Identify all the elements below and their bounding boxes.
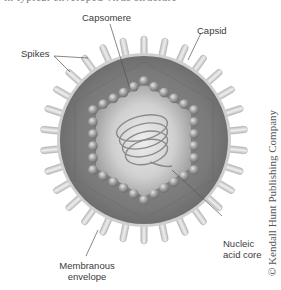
- virus-diagram: in typical enveloped virus structure: [0, 0, 281, 290]
- capsomere: [98, 171, 108, 181]
- capsomere: [88, 153, 98, 163]
- capsomere: [88, 141, 98, 151]
- leader-envelope: [86, 230, 98, 256]
- capsomere: [169, 177, 179, 187]
- capsomere: [139, 76, 149, 86]
- capsomere: [98, 99, 108, 109]
- leader-capsid: [188, 33, 201, 60]
- capsomere: [189, 117, 199, 127]
- capsomere: [88, 129, 98, 139]
- capsomere: [109, 94, 119, 104]
- capsomere: [129, 82, 139, 92]
- capsomere: [88, 165, 98, 175]
- capsomere: [88, 117, 98, 127]
- capsomere: [149, 82, 159, 92]
- capsomere: [189, 141, 199, 151]
- capsomere: [119, 88, 129, 98]
- capsomere: [88, 105, 98, 115]
- label-capsid: Capsid: [197, 25, 227, 36]
- capsomere: [189, 105, 199, 115]
- capsomere: [169, 94, 179, 104]
- capsomere: [119, 183, 129, 193]
- capsomere: [189, 153, 199, 163]
- capsomere: [139, 195, 149, 205]
- capsomere: [189, 165, 199, 175]
- capsomere: [189, 129, 199, 139]
- capsomere: [159, 183, 169, 193]
- capsomere: [179, 171, 189, 181]
- label-nucleic-acid-core: Nucleic acid core: [223, 238, 262, 260]
- label-capsomere: Capsomere: [82, 12, 131, 23]
- leader-spikes-b: [54, 56, 70, 72]
- label-membranous-envelope: Membranous envelope: [48, 260, 126, 282]
- capsomere: [179, 99, 189, 109]
- capsomere: [159, 88, 169, 98]
- capsomere: [129, 189, 139, 199]
- capsomere: [149, 189, 159, 199]
- copyright-notice: © Kendall Hunt Publishing Company: [266, 110, 278, 276]
- label-spikes: Spikes: [21, 48, 50, 59]
- capsomere: [109, 177, 119, 187]
